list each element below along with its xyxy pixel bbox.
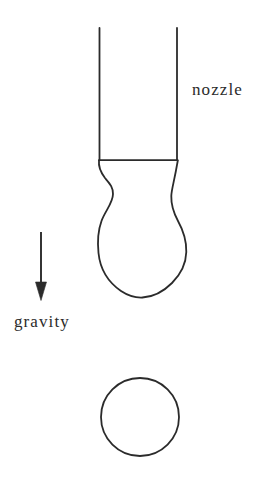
pendant-drop — [98, 161, 186, 298]
gravity-arrow-head — [36, 282, 47, 301]
gravity-label: gravity — [14, 313, 70, 330]
pendant-drop-figure: nozzle gravity — [0, 0, 273, 489]
detached-drop — [101, 378, 179, 456]
nozzle-label: nozzle — [192, 81, 243, 98]
nozzle-tube — [100, 28, 178, 160]
figure-canvas — [0, 0, 273, 489]
gravity-arrow — [36, 232, 47, 301]
